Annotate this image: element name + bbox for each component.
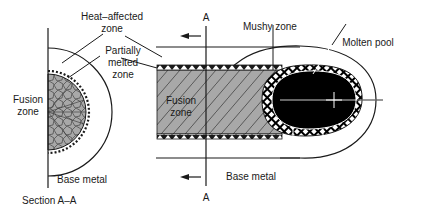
label-molten-pool: Molten pool [342, 37, 394, 48]
top-view: A A Fusion zone Mushy zone Molten pool B… [121, 12, 394, 203]
section-marker-a-bottom: A [203, 192, 210, 203]
label-partially-melted-zone: Partially [105, 45, 141, 56]
partially-melted-strip-top [157, 65, 282, 70]
section-a-a: Heat–affected zone Partially melted zone… [13, 11, 143, 206]
section-marker-a-top: A [203, 12, 210, 23]
label-base-metal-top: Base metal [226, 171, 276, 182]
label-section-a-a: Section A–A [22, 195, 77, 206]
svg-text:zone: zone [170, 107, 192, 118]
label-heat-affected-zone: Heat–affected [81, 11, 143, 22]
svg-text:zone: zone [112, 69, 134, 80]
svg-text:zone: zone [101, 23, 123, 34]
label-mushy-zone: Mushy zone [243, 21, 297, 32]
svg-text:zone: zone [17, 106, 39, 117]
weld-zones-diagram: Heat–affected zone Partially melted zone… [0, 0, 433, 214]
travel-direction-arrow-top [180, 33, 201, 39]
label-base-metal-section: Base metal [57, 174, 107, 185]
label-fusion-zone-section: Fusion [13, 94, 43, 105]
partially-melted-strip-bottom [157, 134, 282, 139]
label-fusion-zone-top: Fusion [166, 95, 196, 106]
travel-direction-arrow-bottom [180, 174, 201, 180]
